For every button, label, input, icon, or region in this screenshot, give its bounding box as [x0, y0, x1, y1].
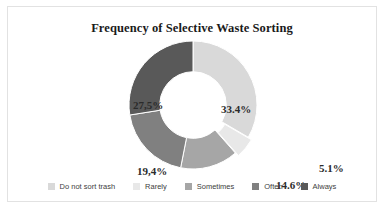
chart-frame: Frequency of Selective Waste Sorting 33.…	[7, 6, 377, 202]
slice-label-often: 19,4%	[137, 165, 167, 177]
legend-label: Rarely	[145, 182, 167, 191]
legend-label: Always	[313, 182, 337, 191]
donut-slice[interactable]	[193, 41, 257, 137]
legend-label: Do not sort trash	[60, 182, 115, 191]
legend-label: Sometimes	[197, 182, 235, 191]
legend-item-always[interactable]: Always	[301, 182, 337, 191]
donut-slice[interactable]	[130, 110, 187, 168]
legend-item-rarely[interactable]: Rarely	[133, 182, 167, 191]
legend-label: Often	[264, 182, 282, 191]
slice-label-always: 27,5%	[133, 99, 163, 111]
legend-item-sometimes[interactable]: Sometimes	[185, 182, 235, 191]
legend-swatch-icon	[133, 183, 140, 190]
donut-chart: 33.4% 5.1% 14.6% 19,4% 27,5%	[113, 37, 273, 173]
legend-swatch-icon	[48, 183, 55, 190]
chart-legend: Do not sort trash Rarely Sometimes Often…	[8, 180, 376, 192]
legend-swatch-icon	[252, 183, 259, 190]
slice-label-do-not-sort-trash: 33.4%	[221, 103, 251, 115]
chart-title: Frequency of Selective Waste Sorting	[8, 21, 376, 36]
legend-swatch-icon	[301, 183, 308, 190]
legend-item-do-not-sort-trash[interactable]: Do not sort trash	[48, 182, 115, 191]
legend-swatch-icon	[185, 183, 192, 190]
slice-label-rarely: 5.1%	[319, 162, 344, 174]
legend-item-often[interactable]: Often	[252, 182, 282, 191]
